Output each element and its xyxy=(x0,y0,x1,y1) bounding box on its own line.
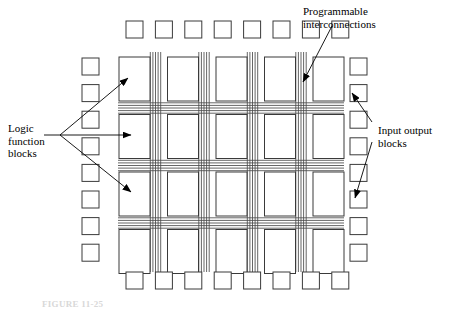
figure-caption: FIGURE 11-25 xyxy=(42,299,103,309)
io-block[interactable] xyxy=(244,21,261,38)
logic-function-block[interactable] xyxy=(265,57,296,101)
io-block[interactable] xyxy=(350,191,367,208)
logic-function-block[interactable] xyxy=(119,172,150,216)
io-block[interactable] xyxy=(82,164,99,181)
label-line: Input output xyxy=(378,124,432,137)
logic-function-block[interactable] xyxy=(216,57,247,101)
io-block[interactable] xyxy=(273,21,290,38)
io-block[interactable] xyxy=(350,58,367,75)
logic-function-block[interactable] xyxy=(313,57,344,101)
io-block[interactable] xyxy=(185,21,202,38)
logic-function-block[interactable] xyxy=(313,172,344,216)
io-block[interactable] xyxy=(155,272,172,289)
label-line: Logic xyxy=(8,122,45,135)
logic-function-block[interactable] xyxy=(216,172,247,216)
fpga-architecture-diagram xyxy=(0,0,455,311)
io-block[interactable] xyxy=(214,21,231,38)
label-line: blocks xyxy=(8,147,45,160)
label-line: blocks xyxy=(378,137,432,150)
io-block[interactable] xyxy=(185,272,202,289)
io-block[interactable] xyxy=(82,244,99,261)
io-block[interactable] xyxy=(244,272,261,289)
io-block[interactable] xyxy=(82,218,99,235)
logic-function-block[interactable] xyxy=(216,230,247,274)
io-block[interactable] xyxy=(214,272,231,289)
label-logic-function-blocks: Logicfunctionblocks xyxy=(8,122,45,160)
label-line: Programmable xyxy=(303,5,376,18)
io-block[interactable] xyxy=(82,191,99,208)
logic-function-block[interactable] xyxy=(119,115,150,159)
io-block[interactable] xyxy=(82,111,99,128)
label-line: interconnections xyxy=(303,18,376,31)
label-input-output-blocks: Input outputblocks xyxy=(378,124,432,149)
label-programmable-interconnections: Programmableinterconnections xyxy=(303,5,376,30)
logic-function-block[interactable] xyxy=(168,172,199,216)
logic-function-block[interactable] xyxy=(265,172,296,216)
io-block[interactable] xyxy=(82,85,99,102)
io-block[interactable] xyxy=(332,272,349,289)
io-block[interactable] xyxy=(126,21,143,38)
io-block[interactable] xyxy=(350,111,367,128)
logic-function-block[interactable] xyxy=(265,230,296,274)
logic-function-block[interactable] xyxy=(216,115,247,159)
io-block[interactable] xyxy=(82,138,99,155)
io-block[interactable] xyxy=(302,272,319,289)
logic-function-block[interactable] xyxy=(265,115,296,159)
io-block[interactable] xyxy=(155,21,172,38)
logic-function-block[interactable] xyxy=(313,230,344,274)
logic-function-block[interactable] xyxy=(168,230,199,274)
io-block[interactable] xyxy=(82,58,99,75)
logic-function-block[interactable] xyxy=(168,57,199,101)
logic-function-block[interactable] xyxy=(119,57,150,101)
io-block[interactable] xyxy=(273,272,290,289)
logic-function-block[interactable] xyxy=(168,115,199,159)
io-block[interactable] xyxy=(126,272,143,289)
logic-function-block[interactable] xyxy=(119,230,150,274)
io-block[interactable] xyxy=(350,244,367,261)
logic-function-block[interactable] xyxy=(313,115,344,159)
label-line: function xyxy=(8,135,45,148)
io-block[interactable] xyxy=(350,138,367,155)
figure-container: Logicfunctionblocks Programmableintercon… xyxy=(0,0,455,311)
io-block[interactable] xyxy=(350,218,367,235)
